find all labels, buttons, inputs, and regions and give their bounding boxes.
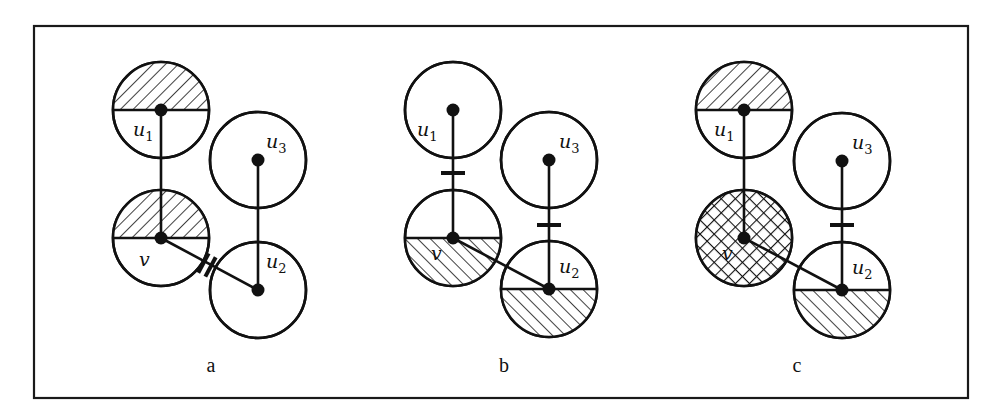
vertex-u2: [252, 284, 265, 297]
vertex-v: [155, 232, 168, 245]
vertex-u3: [543, 154, 556, 167]
panel-a: u1vu3u2a: [113, 62, 306, 376]
shaded-half-top: [113, 62, 209, 110]
shaded-half-bottom: [501, 289, 597, 337]
panel-label-b: b: [499, 354, 509, 376]
vertex-u3: [836, 155, 849, 168]
shaded-half-bottom: [405, 238, 501, 286]
panel-b: u1vu3u2b: [405, 62, 597, 376]
vertex-u1: [738, 104, 751, 117]
vertex-label-v: v: [722, 242, 733, 264]
panel-label-c: c: [793, 354, 802, 376]
shaded-half-bottom: [794, 290, 890, 338]
panels-group: u1vu3u2au1vu3u2bu1vu3u2c: [113, 62, 890, 376]
vertex-u1: [447, 104, 460, 117]
vertex-label-v: v: [139, 248, 150, 270]
vertex-v: [447, 232, 460, 245]
vertex-u1: [155, 104, 168, 117]
panel-c: u1vu3u2c: [696, 62, 890, 376]
panel-label-a: a: [207, 354, 216, 376]
vertex-u2: [836, 284, 849, 297]
shaded-half-top: [696, 62, 792, 110]
vertex-u2: [543, 283, 556, 296]
vertex-label-v: v: [431, 242, 442, 264]
figure-canvas: u1vu3u2au1vu3u2bu1vu3u2c: [0, 0, 1003, 416]
vertex-v: [738, 232, 751, 245]
vertex-u3: [252, 154, 265, 167]
